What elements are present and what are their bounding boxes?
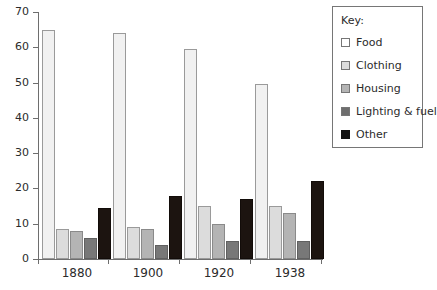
x-axis-label: 1900 <box>118 266 178 281</box>
bar <box>113 33 126 259</box>
bar <box>198 206 211 259</box>
y-axis-tick-label: 40 <box>15 111 29 124</box>
x-axis-tick <box>38 259 39 264</box>
x-axis-tick <box>250 259 251 264</box>
bar <box>212 224 225 259</box>
x-axis-tick <box>321 259 322 264</box>
legend-item: Clothing <box>341 59 422 72</box>
legend-item: Housing <box>341 82 422 95</box>
bar <box>269 206 282 259</box>
legend-item-label: Other <box>356 128 387 141</box>
bar <box>240 199 253 259</box>
bar <box>84 238 97 259</box>
legend-item: Lighting & fuel <box>341 105 422 118</box>
y-axis-tick-label: 60 <box>15 40 29 53</box>
y-axis-tick-label: 20 <box>15 181 29 194</box>
bar <box>283 213 296 259</box>
plot-area: 010203040506070 1880190019201938 <box>0 0 330 290</box>
legend-item: Food <box>341 36 422 49</box>
legend-box: Key: FoodClothingHousingLighting & fuelO… <box>332 6 423 148</box>
y-axis-tick: 10 <box>33 224 39 225</box>
legend-swatch-icon <box>341 107 350 116</box>
bar <box>42 30 55 259</box>
y-axis-tick: 70 <box>33 12 39 13</box>
legend-items: FoodClothingHousingLighting & fuelOther <box>341 36 422 141</box>
legend-title: Key: <box>341 14 422 27</box>
y-axis-tick-label: 0 <box>22 252 29 265</box>
y-axis-tick: 50 <box>33 83 39 84</box>
x-axis-tick <box>179 259 180 264</box>
bar <box>184 49 197 259</box>
legend-item: Other <box>341 128 422 141</box>
legend-item-label: Clothing <box>356 59 402 72</box>
x-axis-label: 1938 <box>260 266 320 281</box>
legend-item-label: Food <box>356 36 382 49</box>
legend-swatch-icon <box>341 84 350 93</box>
legend-item-label: Lighting & fuel <box>356 105 437 118</box>
legend-swatch-icon <box>341 130 350 139</box>
bar <box>155 245 168 259</box>
bar <box>56 229 69 259</box>
legend-swatch-icon <box>341 61 350 70</box>
y-axis-tick: 30 <box>33 153 39 154</box>
y-axis-tick-label: 50 <box>15 76 29 89</box>
x-axis-label: 1880 <box>47 266 107 281</box>
bar <box>297 241 310 259</box>
bar <box>311 181 324 259</box>
y-axis-tick-label: 30 <box>15 146 29 159</box>
bar <box>127 227 140 259</box>
y-axis-tick-label: 70 <box>15 5 29 18</box>
legend-swatch-icon <box>341 38 350 47</box>
y-axis-tick-label: 10 <box>15 217 29 230</box>
bar <box>98 208 111 259</box>
bar <box>255 84 268 259</box>
bar <box>226 241 239 259</box>
y-axis-tick: 40 <box>33 118 39 119</box>
bar <box>169 196 182 260</box>
bar <box>141 229 154 259</box>
y-axis-tick: 20 <box>33 188 39 189</box>
y-axis-tick: 60 <box>33 47 39 48</box>
x-axis-line <box>38 259 323 260</box>
bar <box>70 231 83 259</box>
x-axis-tick <box>108 259 109 264</box>
legend-item-label: Housing <box>356 82 401 95</box>
x-axis-label: 1920 <box>189 266 249 281</box>
